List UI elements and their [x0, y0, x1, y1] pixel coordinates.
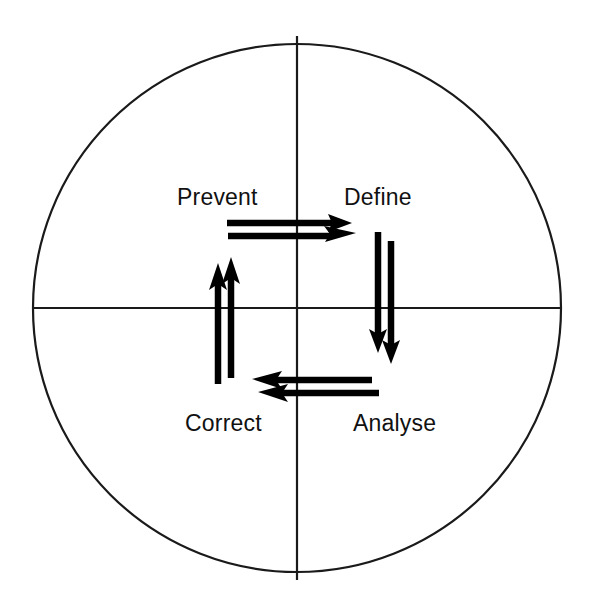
arrow-correct-to-prevent-right	[222, 257, 240, 378]
cycle-diagram: Prevent Define Correct Analyse	[0, 0, 590, 611]
quadrant-label-analyse: Analyse	[353, 410, 436, 436]
quadrant-label-prevent: Prevent	[177, 184, 258, 210]
arrow-prevent-to-define	[227, 214, 356, 242]
arrow-define-to-analyse	[369, 232, 400, 364]
arrow-correct-to-prevent	[209, 257, 240, 384]
arrow-define-to-analyse-right	[382, 241, 400, 364]
quadrant-label-correct: Correct	[185, 410, 262, 436]
arrow-define-to-analyse-left	[369, 232, 387, 353]
diagram-canvas: Prevent Define Correct Analyse	[0, 0, 590, 611]
quadrant-label-define: Define	[344, 184, 412, 210]
arrow-analyse-to-correct	[252, 371, 379, 402]
arrow-analyse-to-correct-upper	[252, 371, 372, 389]
